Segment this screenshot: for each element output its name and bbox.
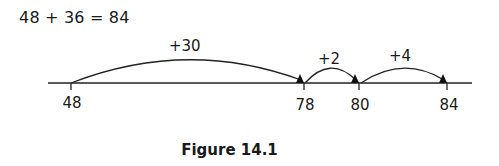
jump-label-2: +2 <box>318 50 340 68</box>
jump-arc-4 <box>361 68 444 83</box>
tick-label-84: 84 <box>439 96 458 114</box>
jump-arc-2 <box>305 68 356 83</box>
tick-label-80: 80 <box>350 96 369 114</box>
jump-arc-30 <box>71 60 301 83</box>
figure-caption: Figure 14.1 <box>0 141 459 159</box>
tick-label-48: 48 <box>62 94 81 112</box>
jump-label-30: +30 <box>169 37 201 55</box>
tick-label-78: 78 <box>295 96 314 114</box>
jump-label-4: +4 <box>389 47 411 65</box>
arrowhead-icon <box>351 74 359 83</box>
